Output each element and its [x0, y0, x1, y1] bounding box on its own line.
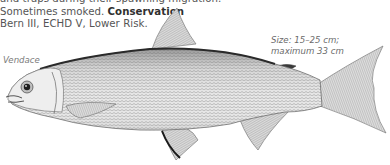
- dorsal-fin: [152, 8, 196, 49]
- fish-illustration: [0, 0, 390, 165]
- tail-fin: [318, 46, 386, 133]
